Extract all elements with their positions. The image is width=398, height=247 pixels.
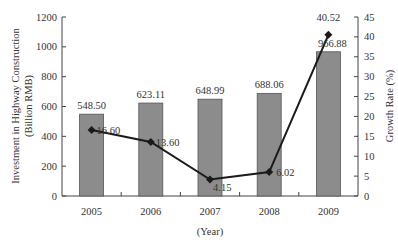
line-value-label: 6.02 — [276, 167, 294, 178]
bar-value-label: 688.06 — [255, 79, 284, 90]
combo-chart: 0200400600800100012000510152025303540452… — [0, 0, 398, 247]
left-tick-label: 0 — [52, 191, 57, 202]
right-tick-label: 15 — [364, 131, 375, 142]
bar — [139, 103, 163, 196]
bar-value-label: 623.11 — [137, 89, 166, 100]
bar-value-label: 648.99 — [196, 85, 225, 96]
right-tick-label: 25 — [364, 91, 375, 102]
right-tick-label: 10 — [364, 151, 375, 162]
line-value-label: 4.15 — [213, 182, 231, 193]
left-tick-label: 800 — [41, 71, 57, 82]
left-tick-label: 1000 — [36, 41, 57, 52]
right-tick-label: 45 — [364, 12, 375, 23]
right-tick-label: 30 — [364, 71, 375, 82]
right-tick-label: 5 — [364, 171, 369, 182]
line-value-label: 16.60 — [97, 125, 121, 136]
bar-series — [80, 52, 341, 196]
x-tick-label: 2005 — [81, 206, 102, 217]
right-tick-label: 20 — [364, 111, 375, 122]
right-tick-label: 40 — [364, 31, 375, 42]
x-tick-label: 2007 — [200, 206, 221, 217]
x-axis-title: (Year) — [197, 226, 224, 238]
left-axis-title-line1: Investment in Highway Construction — [10, 28, 21, 184]
bar-value-label: 966.88 — [318, 38, 347, 49]
left-axis-title-line2: (Billion RMB) — [23, 74, 35, 137]
left-tick-label: 600 — [41, 101, 57, 112]
line-value-label: 40.52 — [317, 12, 341, 23]
x-tick-label: 2009 — [318, 206, 339, 217]
right-axis-title: Growth Rate (%) — [384, 69, 396, 142]
x-tick-label: 2008 — [259, 206, 280, 217]
right-tick-label: 0 — [364, 191, 369, 202]
bar — [316, 52, 340, 196]
left-tick-label: 200 — [41, 161, 57, 172]
bar — [257, 93, 281, 196]
line-value-label: 13.60 — [156, 137, 180, 148]
bar-value-label: 548.50 — [77, 100, 106, 111]
left-tick-label: 1200 — [36, 12, 57, 23]
x-tick-label: 2006 — [140, 206, 161, 217]
left-tick-label: 400 — [41, 131, 57, 142]
right-tick-label: 35 — [364, 51, 375, 62]
